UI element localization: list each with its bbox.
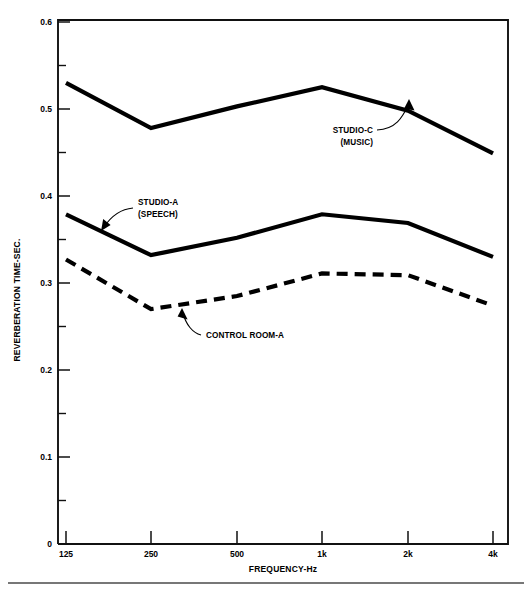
x-tick-label-4k: 4k [488, 549, 498, 559]
series-group [66, 83, 493, 309]
y-axis-title: REVERBERATION TIME-SEC. [12, 239, 22, 362]
x-tick-label-125: 125 [59, 549, 73, 559]
annotation-studio-a: STUDIO-A (SPEECH) [101, 198, 178, 231]
annotation-control-room-a-label: CONTROL ROOM-A [206, 331, 284, 340]
y-axis-major-ticks [58, 22, 70, 544]
annotation-studio-c: STUDIO-C (MUSIC) [333, 99, 415, 147]
x-tick-label-2k: 2k [403, 549, 413, 559]
reverberation-time-chart-figure: 0 0.1 0.2 0.3 0.4 0.5 0.6 125 250 500 1k… [0, 0, 532, 591]
studio-c-arrowhead [404, 99, 414, 111]
annotation-studio-a-line1: STUDIO-A [138, 198, 178, 207]
y-tick-label-0_4: 0.4 [40, 191, 52, 201]
x-axis-ticks [66, 531, 493, 544]
plot-frame [58, 20, 508, 544]
x-tick-label-250: 250 [144, 549, 158, 559]
y-tick-label-0_1: 0.1 [40, 452, 52, 462]
chart-canvas: 0 0.1 0.2 0.3 0.4 0.5 0.6 125 250 500 1k… [0, 0, 532, 591]
y-axis-tick-labels: 0 0.1 0.2 0.3 0.4 0.5 0.6 [40, 17, 52, 549]
control-room-a-arrowhead [178, 308, 188, 319]
x-axis-tick-labels: 125 250 500 1k 2k 4k [59, 549, 498, 559]
annotation-studio-c-line1: STUDIO-C [333, 126, 373, 135]
series-line-studio-a [66, 214, 493, 257]
x-axis-title: FREQUENCY-Hz [249, 564, 318, 574]
annotation-studio-a-line2: (SPEECH) [138, 210, 178, 219]
series-line-control-room-a [66, 260, 493, 310]
y-tick-label-0_6: 0.6 [40, 17, 52, 27]
y-tick-label-0_5: 0.5 [40, 104, 52, 114]
annotation-control-room-a: CONTROL ROOM-A [178, 308, 285, 340]
series-line-studio-c [66, 83, 493, 153]
y-tick-label-0: 0 [47, 539, 52, 549]
y-tick-label-0_2: 0.2 [40, 365, 52, 375]
x-tick-label-500: 500 [230, 549, 244, 559]
x-tick-label-1k: 1k [317, 549, 327, 559]
annotation-studio-c-line2: (MUSIC) [340, 138, 373, 147]
y-tick-label-0_3: 0.3 [40, 278, 52, 288]
